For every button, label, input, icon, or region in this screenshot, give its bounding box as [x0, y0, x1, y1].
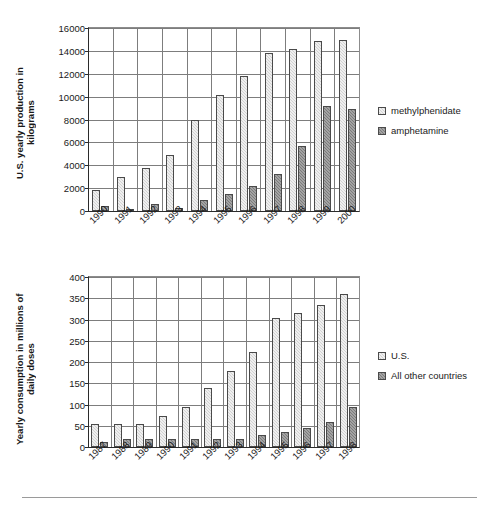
consumption-y-axis-title: Yearly consumption in millions of daily … — [14, 284, 40, 454]
bar-u-s-1997 — [317, 305, 325, 447]
x-tick-cell: 1999 — [311, 214, 336, 254]
bar-methylphenidate-1996 — [240, 76, 248, 211]
x-tick-cell: 2000 — [335, 214, 360, 254]
bar-group — [112, 277, 135, 447]
x-tick-cell: 1993 — [224, 450, 247, 490]
x-tick-cell: 1992 — [201, 450, 224, 490]
consumption-legend: U.S. All other countries — [378, 350, 467, 390]
x-tick-cell: 1995 — [269, 450, 292, 490]
x-tick-cell: 1998 — [337, 450, 360, 490]
x-tick-cell: 1998 — [286, 214, 311, 254]
production-y-axis-title-text: U.S. yearly production in kilograms — [14, 67, 36, 179]
y-tick-label: 350 — [69, 293, 85, 304]
bar-groups — [89, 277, 359, 447]
x-tick-cell: 1988 — [111, 450, 134, 490]
legend-swatch-amphetamine — [378, 127, 386, 135]
bar-group — [337, 277, 359, 447]
x-tick-cell: 1997 — [261, 214, 286, 254]
legend-swatch-us — [378, 352, 386, 360]
bar-methylphenidate-2000 — [339, 40, 347, 211]
bar-group — [89, 28, 114, 211]
production-chart-figure: U.S. yearly production in kilograms 0200… — [0, 0, 499, 254]
y-tick-label: 8000 — [64, 114, 85, 125]
production-x-axis-ticks: 1990199119921993199419951996199719981999… — [88, 214, 360, 254]
bar-group — [138, 28, 163, 211]
consumption-plot-wrapper: 050100150200250300350400 198719881989199… — [88, 276, 360, 448]
y-tick-label: 16000 — [59, 23, 85, 34]
consumption-y-axis-title-text: Yearly consumption in millions of daily … — [14, 293, 36, 445]
bar-group — [261, 28, 286, 211]
y-tick-label: 200 — [69, 357, 85, 368]
bar-u-s-1992 — [204, 388, 212, 447]
bar-group — [157, 277, 180, 447]
bar-groups — [89, 28, 359, 211]
bar-u-s-1996 — [294, 313, 302, 447]
bar-u-s-1993 — [227, 371, 235, 447]
bar-u-s-1998 — [340, 294, 348, 447]
bar-methylphenidate-1992 — [142, 168, 150, 211]
y-tick-label: 12000 — [59, 68, 85, 79]
y-tick-mark — [85, 447, 89, 448]
consumption-chart-figure: Yearly consumption in millions of daily … — [0, 254, 499, 508]
bar-methylphenidate-1997 — [265, 53, 273, 211]
bar-group — [163, 28, 188, 211]
legend-label-us: U.S. — [391, 350, 409, 361]
legend-label-amphetamine: amphetamine — [391, 125, 449, 136]
consumption-plot-area: 050100150200250300350400 — [88, 276, 360, 448]
production-legend: methylphenidate amphetamine — [378, 105, 461, 145]
bar-group — [315, 277, 338, 447]
x-tick-cell: 1987 — [88, 450, 111, 490]
consumption-x-axis-ticks: 1987198819891990199119921993199419951996… — [88, 450, 360, 490]
bar-group — [224, 277, 247, 447]
footer-rule — [22, 497, 477, 498]
bar-group — [134, 277, 157, 447]
bar-group — [311, 28, 336, 211]
legend-item: amphetamine — [378, 125, 461, 136]
y-tick-mark — [85, 211, 89, 212]
legend-item: methylphenidate — [378, 105, 461, 116]
x-tick-cell: 1990 — [88, 214, 113, 254]
bar-methylphenidate-1999 — [314, 41, 322, 211]
bar-methylphenidate-1995 — [216, 95, 224, 211]
bar-group — [202, 277, 225, 447]
x-tick-cell: 1989 — [133, 450, 156, 490]
y-tick-label: 0 — [80, 442, 85, 453]
bar-amphetamine-2000 — [348, 109, 356, 211]
y-tick-label: 10000 — [59, 91, 85, 102]
bar-group — [247, 277, 270, 447]
legend-item: U.S. — [378, 350, 467, 361]
y-tick-label: 400 — [69, 272, 85, 283]
bar-methylphenidate-1998 — [289, 49, 297, 211]
production-plot-wrapper: 0200040006000800010000120001400016000 19… — [88, 27, 360, 212]
bar-methylphenidate-1993 — [166, 155, 174, 211]
bar-group — [179, 277, 202, 447]
production-plot-area: 0200040006000800010000120001400016000 — [88, 27, 360, 212]
y-tick-label: 300 — [69, 314, 85, 325]
y-tick-label: 150 — [69, 378, 85, 389]
y-tick-label: 2000 — [64, 183, 85, 194]
bar-group — [188, 28, 213, 211]
x-tick-cell: 1991 — [179, 450, 202, 490]
legend-item: All other countries — [378, 370, 467, 381]
y-tick-label: 4000 — [64, 160, 85, 171]
bar-u-s-1994 — [249, 352, 257, 447]
y-tick-label: 250 — [69, 335, 85, 346]
bar-amphetamine-1998 — [298, 146, 306, 211]
bar-u-s-1995 — [272, 318, 280, 447]
x-tick-cell: 1991 — [113, 214, 138, 254]
y-tick-label: 6000 — [64, 137, 85, 148]
bar-group — [286, 28, 311, 211]
y-tick-label: 0 — [80, 206, 85, 217]
y-tick-label: 50 — [74, 420, 85, 431]
bar-group — [292, 277, 315, 447]
x-tick-cell: 1990 — [156, 450, 179, 490]
bar-methylphenidate-1994 — [191, 120, 199, 211]
bar-group — [237, 28, 262, 211]
x-tick-cell: 1994 — [187, 214, 212, 254]
bar-group — [89, 277, 112, 447]
x-tick-cell: 1993 — [162, 214, 187, 254]
x-tick-cell: 1992 — [137, 214, 162, 254]
bar-group — [270, 277, 293, 447]
production-y-axis-title: U.S. yearly production in kilograms — [14, 48, 40, 198]
legend-swatch-methylphenidate — [378, 107, 386, 115]
